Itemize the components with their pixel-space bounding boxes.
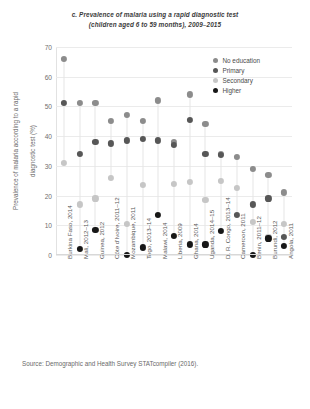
data-point[interactable] [265, 195, 271, 201]
category-column[interactable]: Côte d'Ivoire, 2011–12 [103, 47, 119, 255]
legend-item-label: Secondary [222, 77, 253, 84]
data-point[interactable] [281, 190, 287, 196]
legend-item[interactable]: No education [213, 57, 260, 64]
legend-item[interactable]: Primary [213, 67, 260, 74]
data-point[interactable] [61, 160, 67, 166]
data-point[interactable] [108, 118, 114, 124]
connector-stem [173, 142, 174, 236]
y-axis-label-line1: Prevalence of malaria according to a rap… [12, 47, 20, 255]
connector-stem [126, 115, 127, 255]
source-caption: Source: Demographic and Health Survey ST… [22, 360, 198, 367]
data-point[interactable] [234, 185, 240, 191]
data-point[interactable] [61, 56, 67, 62]
data-point[interactable] [92, 100, 98, 106]
data-point[interactable] [187, 117, 193, 123]
data-point[interactable] [202, 197, 208, 203]
legend-marker-icon [213, 68, 218, 73]
legend-item-label: Higher [222, 87, 241, 94]
y-axis-tick-label: 0 [48, 252, 52, 259]
figure-container: c. Prevalence of malaria using a rapid d… [0, 0, 310, 409]
connector-stem [205, 124, 206, 244]
data-point[interactable] [124, 138, 130, 144]
y-axis-tick-label: 40 [45, 133, 52, 140]
y-axis-label: Prevalence of malaria according to a rap… [12, 47, 38, 255]
legend-item[interactable]: Higher [213, 87, 260, 94]
data-point[interactable] [92, 139, 98, 145]
data-point[interactable] [139, 182, 145, 188]
data-point[interactable] [187, 179, 193, 185]
data-point[interactable] [76, 100, 82, 106]
legend-marker-icon [213, 88, 218, 93]
data-point[interactable] [139, 136, 145, 142]
data-point[interactable] [155, 138, 161, 144]
connector-stem [252, 169, 253, 255]
connector-stem [95, 103, 96, 229]
connector-stem [63, 59, 64, 163]
data-point[interactable] [202, 151, 208, 157]
connector-stem [158, 100, 159, 214]
chart-title-line2: (children aged 6 to 59 months), 2009–201… [0, 20, 310, 30]
connector-stem [111, 121, 112, 177]
data-point[interactable] [234, 154, 240, 160]
category-column[interactable]: Uganda, 2014–15 [198, 47, 214, 255]
category-column[interactable]: Mali, 2012–13 [72, 47, 88, 255]
chart-legend: No educationPrimarySecondaryHigher [213, 57, 260, 94]
data-point[interactable] [171, 142, 177, 148]
data-point[interactable] [265, 172, 271, 178]
chart-title-line1: c. Prevalence of malaria using a rapid d… [0, 10, 310, 20]
y-axis-tick-label: 60 [45, 73, 52, 80]
data-point[interactable] [155, 97, 161, 103]
category-column[interactable]: Malawi, 2014 [150, 47, 166, 255]
category-column[interactable]: Ghana, 2014 [182, 47, 198, 255]
data-point[interactable] [108, 140, 114, 146]
data-point[interactable] [218, 152, 224, 158]
legend-marker-icon [213, 58, 218, 63]
category-column[interactable]: Burundi, 2012 [261, 47, 277, 255]
legend-marker-icon [213, 78, 218, 83]
category-column[interactable]: Togo, 2013–14 [135, 47, 151, 255]
legend-item-label: Primary [222, 67, 244, 74]
y-axis-tick-label: 50 [45, 103, 52, 110]
data-point[interactable] [61, 100, 67, 106]
connector-stem [221, 154, 222, 231]
data-point[interactable] [202, 121, 208, 127]
y-axis-tick-label: 70 [45, 44, 52, 51]
legend-item[interactable]: Secondary [213, 77, 260, 84]
category-column[interactable]: Mozambique, 2011 [119, 47, 135, 255]
y-axis-tick-label: 30 [45, 162, 52, 169]
legend-item-label: No education [222, 57, 260, 64]
data-point[interactable] [76, 151, 82, 157]
x-axis-line [56, 254, 292, 255]
data-point[interactable] [76, 201, 82, 207]
data-point[interactable] [155, 212, 161, 218]
y-axis-tick-label: 10 [45, 222, 52, 229]
data-point[interactable] [171, 181, 177, 187]
y-axis-tick-label: 20 [45, 192, 52, 199]
data-point[interactable] [250, 201, 256, 207]
data-point[interactable] [124, 112, 130, 118]
connector-stem [79, 103, 80, 249]
data-point[interactable] [108, 175, 114, 181]
data-point[interactable] [92, 195, 98, 201]
data-point[interactable] [139, 118, 145, 124]
data-point[interactable] [250, 166, 256, 172]
y-axis-label-line2: diagnostic test (%) [29, 47, 37, 255]
category-column[interactable]: Guinea, 2012 [87, 47, 103, 255]
category-column[interactable]: Burkina Faso, 2014 [56, 47, 72, 255]
connector-stem [268, 175, 269, 239]
category-column[interactable]: Liberia, 2009 [166, 47, 182, 255]
data-point[interactable] [187, 91, 193, 97]
category-column[interactable]: Angola, 2011 [276, 47, 292, 255]
data-point[interactable] [218, 178, 224, 184]
chart-title: c. Prevalence of malaria using a rapid d… [0, 10, 310, 29]
